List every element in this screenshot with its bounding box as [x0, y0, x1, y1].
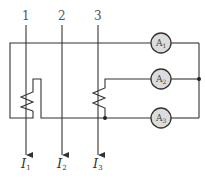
ammeter-a2: A2 — [151, 69, 171, 89]
resistor-1 — [21, 79, 151, 118]
conductor-label-3: 3 — [94, 9, 102, 23]
junction-dot-right — [197, 77, 201, 81]
junction-dot-resistor-3 — [103, 116, 107, 120]
ammeter-a3: A3 — [151, 108, 171, 128]
current-label-1: I1 — [20, 156, 31, 172]
current-label-2: I2 — [56, 156, 67, 172]
loop-wire-left — [10, 43, 151, 118]
circuit-diagram: 1 2 3 A1 A2 A3 I1 I2 I3 — [0, 0, 205, 181]
conductor-label-2: 2 — [58, 9, 66, 23]
current-label-3: I3 — [92, 156, 103, 172]
resistor-3 — [93, 79, 151, 118]
conductor-label-1: 1 — [22, 9, 30, 23]
ammeter-a1: A1 — [151, 33, 171, 53]
